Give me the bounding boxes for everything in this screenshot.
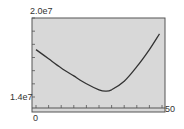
line-chart: 2.0e7 1.4e7 0 50 <box>0 0 184 129</box>
x-right-label: 50 <box>165 104 175 114</box>
y-top-label: 2.0e7 <box>30 6 53 16</box>
plot-area <box>32 18 165 112</box>
y-bottom-label: 1.4e7 <box>10 92 33 102</box>
x-left-label: 0 <box>33 113 38 123</box>
